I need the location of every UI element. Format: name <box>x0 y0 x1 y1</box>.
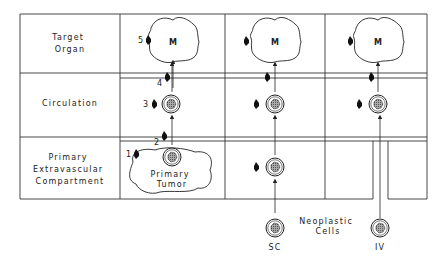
svg-text:M: M <box>374 38 382 47</box>
svg-text:2: 2 <box>154 138 159 147</box>
route-sc-label: SC <box>268 243 281 252</box>
iv-injected-cell <box>371 219 389 237</box>
primary-tumor-label: Primary Tumor <box>150 170 193 189</box>
column-intravenous: M <box>348 17 404 218</box>
route-iv-label: IV <box>375 243 385 252</box>
column-primary-tumor: M Primary Tumor 1 2 3 4 5 <box>126 17 211 193</box>
svg-text:1: 1 <box>126 150 131 159</box>
metastasis-diagram: Target Organ Circulation Primary Extrava… <box>0 0 446 263</box>
sc-injected-cell <box>266 219 284 237</box>
metastasis-label: M <box>169 38 177 47</box>
row-label-target: Target Organ <box>51 33 88 54</box>
row-label-circulation: Circulation <box>42 99 98 108</box>
svg-text:M: M <box>271 38 279 47</box>
neoplastic-cells-label: Neoplastic Cells <box>299 217 357 236</box>
svg-text:3: 3 <box>143 100 148 109</box>
svg-text:4: 4 <box>157 79 162 88</box>
column-subcutaneous: M <box>244 17 301 213</box>
svg-text:5: 5 <box>138 36 143 45</box>
row-label-primary: Primary Extravascular Compartment <box>33 153 107 186</box>
